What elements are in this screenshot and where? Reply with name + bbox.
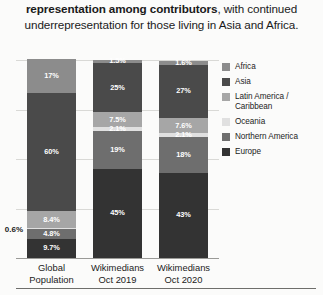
legend-item-latin-america-caribbean[interactable]: Latin America / Caribbean bbox=[222, 92, 321, 111]
segment-value-label: 17% bbox=[44, 72, 59, 80]
legend-item-label: Oceania bbox=[235, 117, 265, 127]
legend-swatch-icon bbox=[222, 133, 230, 141]
segment-value-label: 19% bbox=[110, 146, 125, 154]
segment-value-label: 9.7% bbox=[43, 244, 59, 252]
chart-page: representation among contributors, with … bbox=[0, 0, 323, 295]
segment-value-label: 7.6% bbox=[175, 122, 191, 130]
legend-item-northern-america[interactable]: Northern America bbox=[222, 132, 321, 142]
legend-item-label: Asia bbox=[235, 77, 251, 87]
legend-swatch-icon bbox=[222, 78, 230, 86]
segment-europe[interactable]: 45% bbox=[93, 169, 142, 258]
bar-global-population[interactable]: 17%60%8.4%0.6%4.8%9.7% bbox=[27, 59, 76, 258]
segment-value-label: 18% bbox=[176, 151, 191, 159]
caption-bold: representation among contributors bbox=[26, 2, 218, 15]
segment-value-label: 25% bbox=[110, 84, 125, 92]
segment-value-label: 0.6% bbox=[5, 224, 23, 233]
legend-item-oceania[interactable]: Oceania bbox=[222, 117, 321, 127]
stacked-bar-chart: 17%60%8.4%0.6%4.8%9.7%1.5%25%7.5%2.1%19%… bbox=[16, 60, 219, 258]
segment-asia[interactable]: 25% bbox=[93, 63, 142, 113]
legend-swatch-icon bbox=[222, 93, 230, 101]
legend: AfricaAsiaLatin America / CaribbeanOcean… bbox=[222, 62, 321, 162]
caption: representation among contributors, with … bbox=[8, 1, 315, 32]
legend-item-label: Northern America bbox=[235, 132, 298, 142]
x-axis-line bbox=[16, 258, 219, 259]
segment-europe[interactable]: 9.7% bbox=[27, 239, 76, 258]
legend-swatch-icon bbox=[222, 63, 230, 71]
x-tick-label: WikimediansOct 2020 bbox=[143, 262, 225, 285]
bar-wikimedians-oct-2019[interactable]: 1.5%25%7.5%2.1%19%45% bbox=[93, 60, 142, 258]
legend-item-europe[interactable]: Europe bbox=[222, 147, 321, 157]
legend-item-africa[interactable]: Africa bbox=[222, 62, 321, 72]
segment-value-label: 7.5% bbox=[109, 116, 125, 124]
legend-item-asia[interactable]: Asia bbox=[222, 77, 321, 87]
legend-item-label: Latin America / Caribbean bbox=[235, 92, 321, 111]
segment-northern-america[interactable]: 18% bbox=[159, 137, 208, 173]
segment-latin-america-caribbean[interactable]: 8.4% bbox=[27, 211, 76, 228]
segment-value-label: 8.4% bbox=[43, 216, 59, 224]
legend-item-label: Africa bbox=[235, 62, 256, 72]
segment-asia[interactable]: 27% bbox=[159, 65, 208, 118]
x-tick-line: Oct 2020 bbox=[143, 274, 225, 286]
segment-value-label: 43% bbox=[176, 211, 191, 219]
segment-northern-america[interactable]: 4.8% bbox=[27, 229, 76, 239]
segment-africa[interactable]: 17% bbox=[27, 59, 76, 93]
segment-value-label: 45% bbox=[110, 209, 125, 217]
segment-value-label: 60% bbox=[44, 148, 59, 156]
segment-value-label: 27% bbox=[176, 87, 191, 95]
x-tick-line: Wikimedians bbox=[143, 262, 225, 274]
segment-value-label: 4.8% bbox=[43, 230, 59, 238]
bar-wikimedians-oct-2020[interactable]: 1.6%27%7.6%2.1%18%43% bbox=[159, 61, 208, 258]
legend-swatch-icon bbox=[222, 118, 230, 126]
footer-rule bbox=[16, 288, 316, 289]
segment-europe[interactable]: 43% bbox=[159, 173, 208, 258]
segment-northern-america[interactable]: 19% bbox=[93, 131, 142, 169]
legend-swatch-icon bbox=[222, 148, 230, 156]
legend-item-label: Europe bbox=[235, 147, 261, 157]
segment-asia[interactable]: 60% bbox=[27, 93, 76, 212]
